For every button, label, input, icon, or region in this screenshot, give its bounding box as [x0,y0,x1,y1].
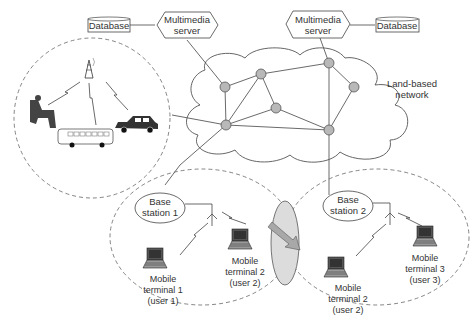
svg-text:Multimedia: Multimedia [295,14,342,25]
cell-2 [285,169,469,305]
car-icon [115,116,158,133]
database-left: Database [88,17,130,32]
person-icon [30,95,56,128]
database-right: Database [376,17,419,32]
svg-text:station 2: station 2 [330,205,366,216]
cell-1 [110,169,294,305]
antenna-icon [385,203,395,225]
terminal-3-label: Mobile terminal 3 (user 3) [405,253,445,285]
svg-text:(user 1): (user 1) [147,296,178,306]
terminal-2-label-cell2: Mobile terminal 2 (user 2) [328,283,368,315]
terminal-1-label: Mobile terminal 1 (user 1) [143,274,183,306]
terminal-2-label-cell1: Mobile terminal 2 (user 2) [225,256,265,288]
svg-text:Mobile: Mobile [335,283,362,293]
svg-text:station 1: station 1 [142,207,178,218]
svg-text:(user 3): (user 3) [409,275,440,285]
svg-text:terminal 2: terminal 2 [328,294,368,304]
svg-text:Database: Database [89,20,130,31]
svg-text:terminal 2: terminal 2 [225,267,265,277]
laptop-icon [324,257,348,277]
antenna-icon [207,204,217,226]
network-label: Land-based [387,78,437,89]
svg-text:server: server [174,25,200,36]
svg-text:Mobile: Mobile [232,256,259,266]
laptop-icon [413,226,437,246]
svg-text:(user 2): (user 2) [332,305,363,315]
network-diagram: Land-based network Multimedia server Dat… [0,0,472,327]
svg-text:(user 2): (user 2) [229,278,260,288]
svg-text:terminal 3: terminal 3 [405,264,445,274]
svg-text:Multimedia: Multimedia [164,14,211,25]
laptop-icon [228,229,252,249]
svg-text:Database: Database [377,20,418,31]
svg-text:server: server [305,25,331,36]
land-based-network-cloud [186,48,407,162]
tower-icon [85,58,95,78]
svg-text:Base: Base [337,194,359,205]
svg-text:terminal 1: terminal 1 [143,285,183,295]
svg-text:Mobile: Mobile [412,253,439,263]
svg-text:network: network [395,89,429,100]
laptop-icon [143,248,167,268]
svg-text:Mobile: Mobile [150,274,177,284]
bus-icon [58,129,113,148]
svg-text:Base: Base [149,196,171,207]
radio-links [48,82,128,125]
